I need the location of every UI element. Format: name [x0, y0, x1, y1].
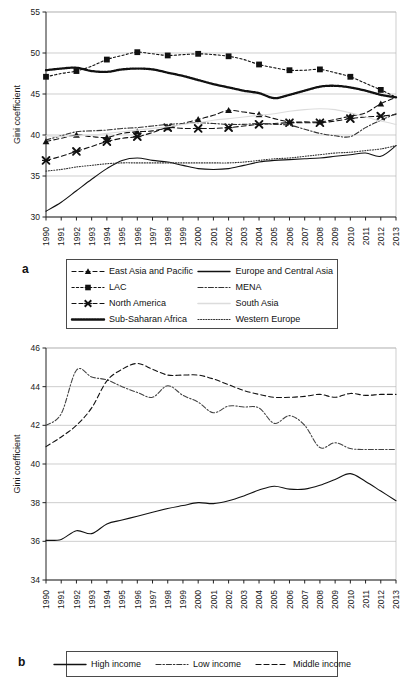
svg-text:1995: 1995: [117, 590, 127, 609]
panel-a-letter: a: [22, 262, 29, 276]
legend-item-a-western-europe[interactable]: Western Europe: [197, 314, 333, 325]
svg-text:2008: 2008: [315, 227, 325, 246]
svg-text:2001: 2001: [209, 227, 219, 246]
svg-text:2008: 2008: [315, 590, 325, 609]
svg-text:40: 40: [31, 459, 41, 469]
svg-text:2007: 2007: [300, 590, 310, 609]
legend-item-a-lac[interactable]: LAC: [71, 282, 197, 293]
svg-text:2012: 2012: [376, 227, 386, 246]
svg-text:38: 38: [31, 498, 41, 508]
svg-text:35: 35: [31, 171, 41, 181]
axes: 3035404550551990199119921993199419951996…: [31, 7, 402, 246]
legend-item-b-low-income[interactable]: Low income: [155, 659, 241, 670]
legend-swatch-dashed-x: [71, 298, 105, 309]
svg-text:1990: 1990: [41, 227, 51, 246]
series-sub-saharan-africa: [46, 68, 396, 98]
legend-item-b-high-income[interactable]: High income: [53, 659, 141, 670]
legend-item-a-north-america[interactable]: North America: [71, 298, 197, 309]
legend-item-a-mena[interactable]: MENA: [197, 282, 333, 293]
series-europe-and-central-asia: [46, 146, 396, 212]
legend-label: High income: [91, 660, 141, 669]
svg-text:1994: 1994: [102, 227, 112, 246]
legend-swatch-thick-dotted: [71, 314, 105, 325]
svg-text:1994: 1994: [102, 590, 112, 609]
svg-text:46: 46: [31, 343, 41, 353]
svg-text:2004: 2004: [254, 227, 264, 246]
svg-text:1999: 1999: [178, 590, 188, 609]
legend-label: LAC: [109, 283, 127, 292]
gridlines: [46, 12, 396, 217]
svg-text:2010: 2010: [346, 227, 356, 246]
svg-text:2002: 2002: [224, 590, 234, 609]
svg-text:1997: 1997: [148, 590, 158, 609]
svg-text:2007: 2007: [300, 227, 310, 246]
chart-b-canvas: 3436384042444619901991199219931994199519…: [0, 340, 408, 640]
svg-text:50: 50: [31, 48, 41, 58]
series-western-europe: [46, 146, 396, 171]
legend-panel-b: High incomeLow incomeMiddle income: [66, 651, 338, 677]
svg-text:1997: 1997: [148, 227, 158, 246]
legend-swatch-solid: [197, 266, 231, 277]
legend-label: Western Europe: [235, 315, 300, 324]
legend-label: Europe and Central Asia: [235, 267, 333, 276]
legend-label: MENA: [235, 283, 261, 292]
svg-text:34: 34: [31, 575, 41, 585]
svg-text:1990: 1990: [41, 590, 51, 609]
legend-item-a-south-asia[interactable]: South Asia: [197, 298, 333, 309]
svg-text:42: 42: [31, 420, 41, 430]
svg-text:2006: 2006: [285, 590, 295, 609]
legend-label: Sub-Saharan Africa: [109, 315, 187, 324]
svg-text:1993: 1993: [87, 590, 97, 609]
legend-item-a-sub-saharan-africa[interactable]: Sub-Saharan Africa: [71, 314, 197, 325]
svg-text:45: 45: [31, 89, 41, 99]
legend-swatch-dashed-triangle: [71, 266, 105, 277]
svg-text:2002: 2002: [224, 227, 234, 246]
series-mena: [46, 114, 396, 140]
svg-text:2009: 2009: [330, 227, 340, 246]
figure-gini-coefficient-panels: 3035404550551990199119921993199419951996…: [0, 0, 408, 682]
svg-text:2000: 2000: [193, 227, 203, 246]
svg-text:1999: 1999: [178, 227, 188, 246]
svg-text:2004: 2004: [254, 590, 264, 609]
series-lac: [43, 49, 396, 97]
legend-swatch-dashed: [255, 659, 289, 670]
legend-item-b-middle-income[interactable]: Middle income: [255, 659, 351, 670]
svg-text:2013: 2013: [391, 590, 401, 609]
svg-text:1993: 1993: [87, 227, 97, 246]
chart-a-canvas: 3035404550551990199119921993199419951996…: [0, 0, 408, 258]
svg-text:2005: 2005: [269, 227, 279, 246]
series-high-income: [46, 474, 396, 541]
legend-label: South Asia: [235, 299, 278, 308]
svg-text:2012: 2012: [376, 590, 386, 609]
svg-text:Gini coefficient: Gini coefficient: [12, 434, 22, 493]
svg-text:55: 55: [31, 7, 41, 17]
svg-text:1998: 1998: [163, 227, 173, 246]
panel-b-income-groups: 3436384042444619901991199219931994199519…: [0, 340, 408, 682]
legend-item-a-europe-and-central-asia[interactable]: Europe and Central Asia: [197, 266, 333, 277]
series-low-income: [46, 368, 396, 449]
gridlines: [46, 348, 396, 580]
legend-swatch-dash-dot: [155, 659, 189, 670]
svg-text:2010: 2010: [346, 590, 356, 609]
svg-text:2011: 2011: [361, 590, 371, 609]
legend-label: North America: [109, 299, 166, 308]
legend-label: Low income: [193, 660, 241, 669]
legend-swatch-fine-dotted: [197, 314, 231, 325]
legend-panel-a: East Asia and PacificEurope and Central …: [66, 259, 338, 329]
legend-swatch-solid: [53, 659, 87, 670]
series-north-america: [42, 113, 396, 164]
svg-text:1991: 1991: [56, 227, 66, 246]
svg-text:1995: 1995: [117, 227, 127, 246]
svg-text:1991: 1991: [56, 590, 66, 609]
svg-text:2009: 2009: [330, 590, 340, 609]
svg-text:40: 40: [31, 130, 41, 140]
legend-item-a-east-asia-and-pacific[interactable]: East Asia and Pacific: [71, 266, 197, 277]
svg-text:2001: 2001: [209, 590, 219, 609]
legend-label: Middle income: [293, 660, 351, 669]
svg-text:1992: 1992: [72, 227, 82, 246]
svg-text:30: 30: [31, 212, 41, 222]
svg-text:36: 36: [31, 536, 41, 546]
legend-swatch-dash-dot: [197, 282, 231, 293]
svg-text:1996: 1996: [133, 227, 143, 246]
svg-text:1998: 1998: [163, 590, 173, 609]
